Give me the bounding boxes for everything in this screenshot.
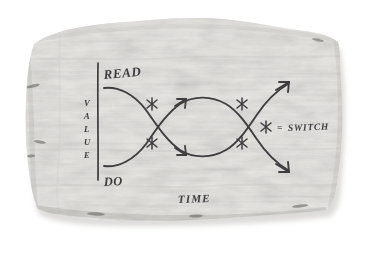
screenshot-canvas: READ DO TIME V A L U E = SWITCH: [0, 0, 368, 255]
paper-sketch-figure: READ DO TIME V A L U E = SWITCH: [0, 0, 368, 255]
paper-overlay-texture: [20, 14, 350, 224]
